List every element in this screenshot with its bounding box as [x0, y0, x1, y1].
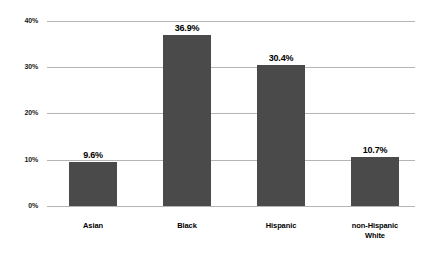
- y-tick-label-0: 0%: [8, 202, 38, 210]
- x-tick-label-hispanic: Hispanic: [236, 221, 326, 231]
- bar-value-hispanic: 30.4%: [246, 53, 316, 63]
- y-tick-label-30: 30%: [8, 63, 38, 71]
- gridline-20: [47, 113, 415, 114]
- bar-value-non-hispanic-white: 10.7%: [340, 145, 410, 155]
- x-tick-label-black-line-1: Black: [142, 221, 232, 231]
- plot-area: 0% 10% 20% 30% 40% 9.6% 36.9% 30.4% 10.7…: [0, 0, 442, 254]
- x-tick-label-hispanic-line-1: Hispanic: [236, 221, 326, 231]
- x-tick-label-non-hispanic-white: non-Hispanic White: [330, 221, 420, 240]
- bar-chart: 0% 10% 20% 30% 40% 9.6% 36.9% 30.4% 10.7…: [0, 0, 442, 254]
- gridline-0: [47, 206, 415, 207]
- bar-value-black: 36.9%: [152, 23, 222, 33]
- x-tick-label-non-hispanic-white-line-1: non-Hispanic: [330, 221, 420, 231]
- gridline-40: [47, 21, 415, 22]
- bar-hispanic[interactable]: [257, 65, 305, 206]
- x-tick-label-asian-line-1: Asian: [48, 221, 138, 231]
- y-tick-label-20: 20%: [8, 109, 38, 117]
- y-tick-label-10: 10%: [8, 156, 38, 164]
- y-tick-label-40: 40%: [8, 17, 38, 25]
- bar-asian[interactable]: [69, 162, 117, 206]
- x-tick-label-asian: Asian: [48, 221, 138, 231]
- gridline-30: [47, 67, 415, 68]
- bar-non-hispanic-white[interactable]: [351, 157, 399, 206]
- bar-black[interactable]: [163, 35, 211, 206]
- x-tick-label-non-hispanic-white-line-2: White: [330, 231, 420, 241]
- x-tick-label-black: Black: [142, 221, 232, 231]
- bar-value-asian: 9.6%: [58, 150, 128, 160]
